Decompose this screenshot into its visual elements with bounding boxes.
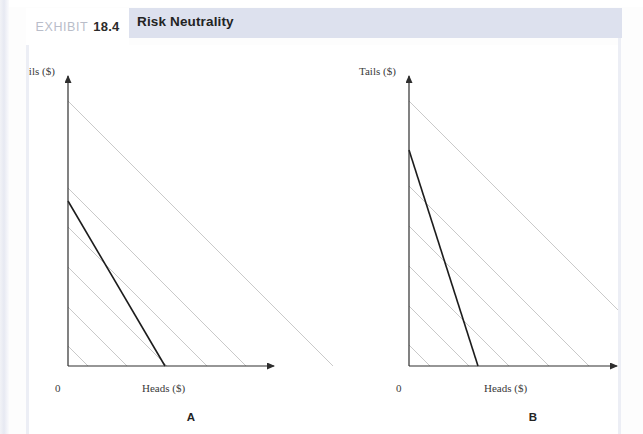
charts-svg: Tails ($) Heads ($) 0 A Tails ($: [29, 45, 618, 434]
panel-a-origin-label: 0: [55, 382, 61, 394]
indifference-curve-2: [68, 307, 127, 366]
indifference-curve-6: [68, 101, 333, 366]
panel-a-budget-line: [68, 201, 165, 366]
panel-b-indifference-curves: [409, 101, 618, 366]
exhibit-page: EXHIBIT 18.4 Risk Neutrality: [0, 0, 643, 434]
panel-b-y-axis-label: Tails ($): [359, 65, 396, 78]
indifference-curve-3: [68, 267, 167, 366]
indifference-curve-4: [409, 226, 549, 366]
indifference-curve-4: [68, 227, 207, 366]
panel-a-y-axis-label: Tails ($): [29, 65, 55, 78]
panel-a-label: A: [187, 411, 195, 423]
exhibit-title: Risk Neutrality: [137, 14, 234, 29]
indifference-curve-1: [409, 345, 430, 366]
panel-b-budget-line: [409, 150, 478, 366]
panel-b-chart: Tails ($) Heads ($) 0 B: [359, 65, 618, 423]
panel-a-indifference-curves: [68, 101, 333, 366]
indifference-curve-5: [409, 186, 589, 366]
exhibit-word-label: EXHIBIT: [36, 20, 89, 34]
panel-b-origin-label: 0: [396, 382, 402, 394]
figure-area: Tails ($) Heads ($) 0 A Tails ($: [29, 45, 618, 434]
panel-b-x-axis-label: Heads ($): [484, 382, 527, 395]
indifference-curve-5: [68, 188, 246, 366]
scan-edge-left: [0, 0, 9, 434]
indifference-curve-2: [409, 306, 469, 366]
panel-b-label: B: [529, 411, 537, 423]
page-right-border: [618, 36, 621, 434]
indifference-curve-6: [409, 101, 618, 366]
indifference-curve-1: [68, 346, 88, 366]
indifference-curve-3: [409, 266, 509, 366]
scan-edge-top: [0, 0, 643, 7]
exhibit-number-box: EXHIBIT 18.4: [26, 8, 129, 45]
exhibit-number-label: 18.4: [93, 19, 119, 34]
panel-a-x-axis-label: Heads ($): [142, 382, 185, 395]
panel-a-chart: Tails ($) Heads ($) 0 A: [29, 65, 333, 423]
